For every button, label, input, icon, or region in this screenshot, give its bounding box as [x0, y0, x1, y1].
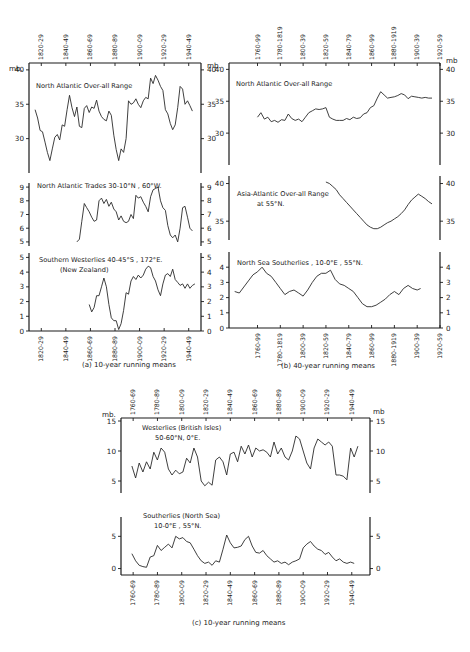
- x-tick-label: 1820-29: [202, 389, 209, 415]
- data-line: [258, 92, 433, 123]
- x-tick-label: 1900-39: [413, 34, 420, 60]
- x-tick-label: 1880-89: [111, 34, 118, 60]
- x-tick-label: 1860-69: [251, 389, 258, 415]
- y-tick-label: 2: [207, 297, 212, 306]
- y-tick-label: 10: [376, 447, 386, 456]
- x-tick-label: 1820-29: [37, 34, 44, 60]
- x-tick-label: 1900-09: [299, 580, 306, 606]
- x-tick-label: 1880-89: [275, 389, 282, 415]
- x-tick-label: 1760-99: [254, 333, 261, 359]
- x-tick-label: 1920-29: [323, 580, 330, 606]
- x-tick-label: 1920-59: [436, 333, 443, 359]
- y-tick-label: 40: [215, 179, 225, 188]
- panel-title: 50-60°N, 0°E.: [155, 434, 200, 442]
- x-tick-label: 1800-39: [299, 34, 306, 60]
- chart-panel-b3: 0011223344North Sea Southerlies , 10-0°E…: [219, 252, 451, 367]
- x-tick-label: 1820-29: [37, 336, 44, 362]
- y-tick-label: 0: [207, 327, 212, 336]
- y-tick-label: 35: [15, 100, 24, 109]
- y-tick-label: 0: [376, 564, 381, 573]
- x-tick-label: 1940-49: [348, 580, 355, 606]
- panel-title: North Sea Southerlies , 10-0°E , 55°N.: [237, 259, 363, 267]
- unit-label: mb: [373, 407, 385, 416]
- x-tick-label: 1820-59: [322, 333, 329, 359]
- y-tick-label: 8: [207, 196, 212, 205]
- y-tick-label: 6: [19, 224, 24, 233]
- data-line: [235, 267, 421, 307]
- x-tick-label: 1840-49: [226, 580, 233, 606]
- x-tick-label: 1920-59: [436, 34, 443, 60]
- panel-title: 10-0°E , 55°N.: [154, 522, 201, 530]
- x-tick-label: 1840-79: [345, 333, 352, 359]
- unit-label: mb.: [102, 410, 116, 419]
- y-tick-label: 3: [207, 282, 212, 291]
- x-tick-label: 1860-99: [368, 34, 375, 60]
- x-tick-label: 1780-89: [153, 580, 160, 606]
- data-line: [326, 182, 432, 229]
- y-tick-label: 35: [446, 217, 455, 226]
- y-tick-label: 5: [376, 477, 381, 486]
- x-tick-label: 1900-09: [136, 336, 143, 362]
- y-tick-label: 5: [19, 237, 24, 246]
- x-tick-label: 1780-89: [153, 389, 160, 415]
- x-tick-label: 1840-49: [226, 389, 233, 415]
- climate-figure: 303035354040North Atlantic Over-all Rang…: [0, 0, 470, 652]
- x-tick-label: 1880-1919: [390, 26, 397, 60]
- caption-b-text: (b) 40-year running means: [281, 362, 375, 370]
- panel-title: Asia-Atlantic Over-all Range: [237, 190, 329, 198]
- x-tick-label: 1840-79: [345, 34, 352, 60]
- y-tick-label: 35: [215, 97, 224, 106]
- y-tick-label: 5: [207, 237, 212, 246]
- y-tick-label: 6: [207, 224, 212, 233]
- x-tick-label: 1800-09: [178, 389, 185, 415]
- y-tick-label: 4: [446, 263, 451, 272]
- chart-panel-c1: 5510101515Westerlies (British Isles)50-6…: [107, 389, 386, 493]
- y-tick-label: 40: [215, 65, 225, 74]
- y-tick-label: 5: [111, 532, 116, 541]
- x-tick-label: 1760-69: [129, 580, 136, 606]
- x-tick-label: 1860-69: [86, 336, 93, 362]
- y-tick-label: 2: [446, 293, 451, 302]
- y-tick-label: 40: [446, 179, 456, 188]
- y-tick-label: 5: [207, 253, 212, 262]
- panel-title: North Atlantic Over-all Range: [36, 82, 132, 90]
- y-tick-label: 30: [446, 129, 456, 138]
- unit-label: mb.: [9, 64, 23, 73]
- x-tick-label: 1880-89: [275, 580, 282, 606]
- x-tick-label: 1860-69: [251, 580, 258, 606]
- x-tick-label: 1800-09: [178, 580, 185, 606]
- chart-panel-b2: 35354040Asia-Atlantic Over-all Rangeat 5…: [215, 176, 456, 240]
- caption-a-text: (a) 10-year running means: [82, 361, 176, 369]
- x-tick-label: 1820-59: [322, 34, 329, 60]
- y-tick-label: 35: [215, 217, 224, 226]
- x-tick-label: 1940-49: [348, 389, 355, 415]
- panel-title: at 55°N.: [257, 200, 284, 208]
- y-tick-label: 7: [19, 210, 24, 219]
- chart-panel-a2: 5566778899North Atlantic Trades 30-10°N …: [19, 182, 212, 246]
- x-tick-label: 1760-69: [129, 389, 136, 415]
- y-tick-label: 10: [107, 447, 117, 456]
- x-tick-label: 1900-09: [136, 34, 143, 60]
- data-line: [132, 436, 358, 486]
- y-tick-label: 1: [219, 308, 224, 317]
- y-tick-label: 5: [111, 477, 116, 486]
- x-tick-label: 1940-49: [185, 34, 192, 60]
- y-tick-label: 3: [19, 282, 24, 291]
- y-tick-label: 2: [19, 297, 24, 306]
- y-tick-label: 2: [219, 293, 224, 302]
- y-tick-label: 3: [219, 278, 224, 287]
- chart-panel-b1: 303035354040North Atlantic Over-all Rang…: [215, 26, 456, 165]
- y-tick-label: 35: [446, 97, 455, 106]
- y-tick-label: 30: [15, 134, 25, 143]
- panel-title: Southern Westerlies 40-45°S , 172°E.: [39, 256, 162, 264]
- panel-title: Westerlies (British Isles): [142, 424, 221, 432]
- y-tick-label: 7: [207, 210, 212, 219]
- data-line: [77, 187, 192, 242]
- y-tick-label: 3: [446, 278, 451, 287]
- panel-title: North Atlantic Trades 30-10°N , 60°W.: [37, 182, 162, 190]
- panel-title: Southerlies (North Sea): [143, 512, 220, 520]
- x-tick-label: 1840-49: [62, 336, 69, 362]
- y-tick-label: 4: [219, 263, 224, 272]
- caption-c-text: (c) 10-year running means: [192, 619, 286, 627]
- y-tick-label: 8: [19, 196, 24, 205]
